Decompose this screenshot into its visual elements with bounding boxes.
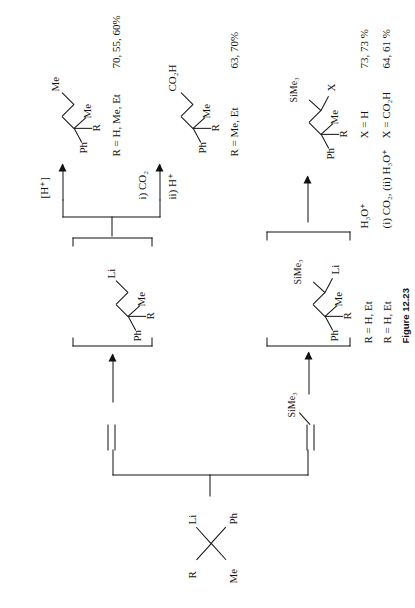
label-sime3: SiMe₃: [286, 392, 296, 417]
conditions-row-0-yields: 73, 73 %: [358, 29, 369, 68]
figure-caption: Figure 12.23: [400, 288, 410, 343]
label-r: R: [337, 130, 348, 137]
bond-ch2-ch: [308, 110, 321, 123]
bracket-right: [266, 231, 350, 240]
label-me: Me: [332, 291, 343, 306]
label-r: R: [186, 571, 197, 578]
scope-acid: R = Me, Et: [228, 107, 239, 156]
product-acid-group: CO₂H R Ph Me: [130, 28, 220, 158]
conditions-row-1-substituent: X = CO₂H: [380, 91, 391, 138]
label-r: R: [341, 312, 352, 319]
intermediate-bottom-group: SiMe₃ Li R Ph Me: [266, 230, 352, 346]
label-me: Me: [328, 109, 339, 124]
label-sime3: SiMe₃: [288, 77, 298, 102]
product-silyl-group: SiMe₃ X R Ph Me: [262, 34, 352, 164]
bond-c-ph: [73, 128, 82, 143]
bond-ch-x: [320, 96, 329, 111]
bond-c-ph: [127, 316, 136, 331]
bond-c-ch2: [308, 122, 321, 135]
double-bond-lower: [114, 424, 115, 450]
bond-c-me: [73, 117, 86, 129]
label-sime3: SiMe₃: [292, 259, 302, 284]
bond-c-ch2: [61, 116, 74, 129]
bond-c-me: [127, 305, 140, 317]
double-bond-lower: [313, 424, 314, 450]
post-fork-branch-b: [159, 199, 160, 217]
conditions-row-1-yields: 64, 61 %: [380, 29, 391, 68]
bond-c-r: [195, 543, 211, 560]
fork-stem: [209, 474, 210, 496]
arrow-carboxylation: [154, 164, 164, 200]
label-ph: Ph: [131, 329, 142, 341]
bond-ch2-co2h: [180, 92, 193, 105]
fork-branch-top: [112, 449, 113, 475]
bond-ch-li: [324, 278, 333, 293]
conditions-row-0-reagent: H₃O⁺: [358, 202, 369, 228]
label-li: Li: [105, 268, 116, 278]
rotated-figure-wrapper: Li Ph R Me Li R Ph Me [H⁺]: [0, 0, 415, 608]
bond-c-ph: [210, 526, 226, 543]
conditions-protonation: [H⁺]: [38, 177, 49, 198]
yields-acid: 63, 70%: [228, 31, 239, 68]
label-me: Me: [200, 103, 211, 118]
bond-ch2-ch2: [180, 104, 193, 117]
bond-c-me: [192, 117, 205, 129]
label-me: Me: [227, 568, 238, 583]
double-bond-upper: [107, 424, 108, 450]
conditions-carboxylation-2: ii) H⁺: [166, 173, 177, 199]
bond-ch2-me: [61, 92, 74, 105]
bond-c-li: [195, 526, 211, 543]
label-ph: Ph: [328, 329, 339, 341]
bond-ch2-ch2: [115, 292, 128, 305]
bond-ch-si: [298, 412, 310, 425]
bond-ch2-li: [115, 280, 128, 293]
label-carboxyl: CO₂H: [166, 64, 177, 91]
reaction-scheme-canvas: Li Ph R Me Li R Ph Me [H⁺]: [0, 0, 415, 608]
label-r: R: [90, 124, 101, 131]
bond-c-ph: [320, 134, 329, 149]
label-li: Li: [186, 514, 197, 524]
fork-vertical: [112, 474, 308, 475]
yields-protonated: 70, 55, 60%: [110, 15, 121, 68]
arrow-bottom-addition: [303, 352, 313, 394]
conditions-row-1-reagent: (i) CO₂, (ii) H₃O⁺: [380, 148, 391, 228]
label-ph: Ph: [324, 147, 335, 159]
post-fork-branch-a: [62, 199, 63, 217]
fork-branch-bottom: [307, 449, 308, 475]
arrow-bottom-quench: [302, 176, 312, 222]
scope-protonated: R = H, Me, Et: [110, 94, 121, 156]
bond-c-ph: [324, 316, 333, 331]
scope-bottom-intermediate: R = H, Et: [362, 301, 373, 343]
product-protonated-group: Me R Ph Me: [18, 38, 100, 158]
bond-c-ch2: [180, 116, 193, 129]
bond-c-me: [320, 123, 333, 135]
bond-ch-si: [312, 281, 325, 293]
label-me: Me: [81, 103, 92, 118]
starting-material-group: Li Ph R Me: [170, 498, 250, 588]
conditions-row-0-substituent: X = H: [358, 110, 369, 138]
bond-ch-si: [308, 99, 321, 111]
bond-c-me: [210, 543, 226, 560]
bracket-right: [72, 237, 152, 246]
bond-c-ch2: [115, 304, 128, 317]
reagent-ethylene: [95, 404, 131, 450]
arrow-top-addition: [107, 354, 117, 402]
label-carboxyl-text: CO₂H: [165, 64, 177, 91]
label-x: X: [325, 83, 336, 91]
bond-ch2-ch: [312, 292, 325, 305]
reagent-vinylsilane: SiMe₃: [288, 390, 334, 450]
post-fork-stem: [111, 216, 112, 236]
label-r: R: [144, 312, 155, 319]
scope-bottom-product: R = H, Et: [381, 301, 392, 343]
bond-c-ph: [192, 128, 201, 143]
label-ph: Ph: [196, 141, 207, 153]
label-ph: Ph: [77, 141, 88, 153]
arrow-protonation: [57, 164, 67, 200]
label-li: Li: [329, 264, 340, 274]
conditions-carboxylation-1: i) CO₂: [136, 170, 147, 199]
label-r: R: [209, 124, 220, 131]
bond-c-me: [324, 305, 337, 317]
double-bond-upper: [306, 424, 307, 450]
intermediate-top-group: Li R Ph Me: [72, 238, 154, 346]
label-ph: Ph: [227, 512, 238, 524]
